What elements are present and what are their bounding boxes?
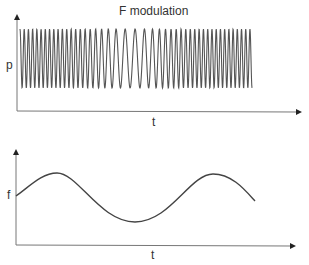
bottom-x-arrow-icon: [290, 243, 296, 249]
bottom-axes: [16, 154, 291, 246]
bottom-y-arrow-icon: [13, 149, 19, 155]
modulating-signal-curve: [16, 173, 255, 222]
top-y-arrow-icon: [14, 14, 20, 20]
top-x-arrow-icon: [296, 109, 302, 115]
fm-waveform: [20, 29, 252, 88]
diagram-canvas: [0, 0, 309, 265]
